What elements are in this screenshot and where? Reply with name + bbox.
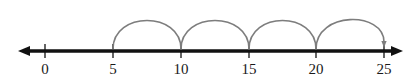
axis-line-group xyxy=(18,46,403,56)
jump-arc-5-to-10 xyxy=(113,21,181,50)
tick-label-5: 5 xyxy=(109,62,117,77)
tick-label-25: 25 xyxy=(377,62,392,77)
tick-label-10: 10 xyxy=(174,62,189,77)
tick-label-0: 0 xyxy=(41,62,49,77)
jump-arcs-group xyxy=(113,20,384,49)
jump-arc-20-to-25 xyxy=(316,20,384,49)
arrow-right-icon xyxy=(391,46,403,56)
jump-arc-10-to-15 xyxy=(181,21,249,50)
arrow-left-icon xyxy=(18,46,30,56)
jump-arc-15-to-20 xyxy=(249,21,316,50)
tick-label-20: 20 xyxy=(309,62,324,77)
number-line-graphic xyxy=(0,0,418,83)
number-line-figure: 0 5 10 15 20 25 xyxy=(0,0,418,83)
tick-label-15: 15 xyxy=(242,62,257,77)
